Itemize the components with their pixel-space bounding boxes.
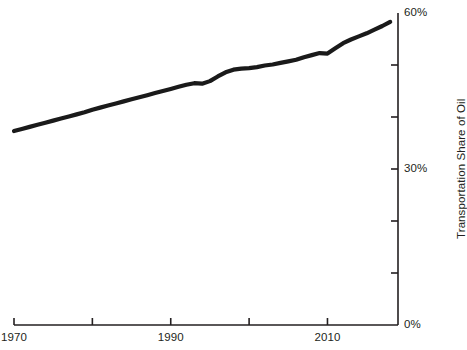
data-series-line bbox=[14, 22, 390, 131]
y-axis-title: Transportation Share of Oil bbox=[455, 99, 467, 239]
y-axis-ticks bbox=[391, 65, 398, 273]
x-axis-ticks bbox=[14, 318, 327, 325]
x-axis-tick-label-1990: 1990 bbox=[158, 331, 184, 343]
x-axis-tick-label-2010: 2010 bbox=[314, 331, 340, 343]
y-axis-tick-label-0: 0% bbox=[404, 318, 421, 330]
y-axis-tick-label-60: 60% bbox=[404, 6, 427, 18]
x-axis-tick-label-1970: 1970 bbox=[1, 331, 27, 343]
y-axis-tick-label-30: 30% bbox=[404, 162, 427, 174]
